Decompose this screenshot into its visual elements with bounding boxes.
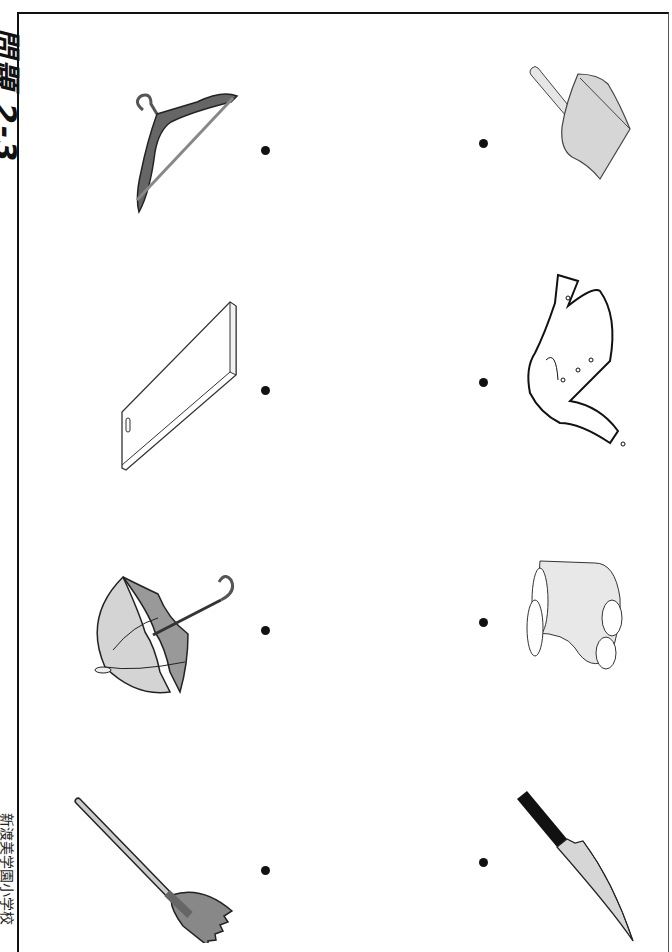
left-dot-4[interactable]: [261, 866, 270, 875]
right-dot-3[interactable]: [479, 618, 488, 627]
hanger-icon: [115, 90, 245, 215]
cutting-board-icon: [120, 300, 240, 475]
school-text: 新渡美学園小学校: [0, 813, 18, 925]
left-dot-2[interactable]: [261, 386, 270, 395]
umbrella-icon: [93, 575, 243, 695]
left-dot-1[interactable]: [261, 146, 270, 155]
left-dot-3[interactable]: [261, 626, 270, 635]
dustpan-icon: [528, 66, 633, 181]
boots-icon: [520, 558, 630, 673]
right-dot-1[interactable]: [479, 139, 488, 148]
worksheet-title: 問題 2-3: [0, 0, 18, 190]
broom-icon: [72, 793, 242, 943]
jacket-icon: [518, 270, 633, 465]
right-dot-2[interactable]: [479, 378, 488, 387]
right-dot-4[interactable]: [479, 858, 488, 867]
knife-icon: [515, 787, 645, 947]
school-name: 新渡美学園小学校: [0, 790, 16, 948]
